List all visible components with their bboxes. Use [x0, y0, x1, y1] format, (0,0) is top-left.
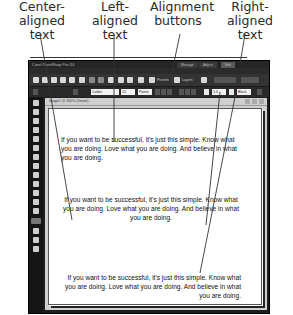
palette-button[interactable]	[214, 77, 236, 83]
cursor-icon[interactable]	[201, 77, 207, 83]
canvas-page[interactable]: If you want to be successful, it's just …	[48, 108, 262, 305]
presets-icon[interactable]	[149, 77, 155, 83]
save-icon[interactable]	[51, 77, 57, 83]
text-mode-button[interactable]	[73, 89, 78, 95]
tools-palette	[29, 97, 43, 313]
left-aligned-paragraph[interactable]: If you want to be successful, it's just …	[61, 135, 241, 162]
layers-label[interactable]: Layers	[182, 77, 193, 83]
redo-icon[interactable]	[98, 77, 104, 83]
open-file-icon[interactable]	[42, 77, 48, 83]
app-title: Corel PaintShop Pro X4	[32, 61, 74, 68]
callout-alignment-buttons: Alignment buttons	[150, 0, 206, 28]
units-select[interactable]: Points	[138, 89, 152, 95]
dropper-tool-icon[interactable]	[33, 127, 39, 133]
crop-icon[interactable]	[108, 77, 114, 83]
center-aligned-paragraph[interactable]: If you want to be successful, it's just …	[61, 195, 241, 222]
mirror-icon[interactable]	[127, 77, 133, 83]
stroke-width-field[interactable]: 1.0	[212, 89, 226, 95]
settings-icon[interactable]	[79, 77, 85, 83]
color-select[interactable]: Black	[237, 89, 251, 95]
straighten-tool-icon[interactable]	[33, 145, 39, 151]
document-tab-label: Image1 @ 100% (Vector)	[49, 98, 88, 105]
copy-icon[interactable]	[69, 77, 75, 83]
eraser-tool-icon[interactable]	[33, 199, 39, 205]
crop-tool-icon[interactable]	[33, 136, 39, 142]
callout-center-aligned-text: Center-aligned text	[2, 0, 82, 42]
print-icon[interactable]	[60, 77, 66, 83]
title-bar: Corel PaintShop Pro X4 Manage Adjust Edi…	[29, 61, 269, 68]
red-eye-tool-icon[interactable]	[33, 154, 39, 160]
document-tab[interactable]: Image1 @ 100% (Vector)	[45, 98, 267, 106]
clone-tool-icon[interactable]	[33, 172, 39, 178]
font-select[interactable]: Calibri	[91, 89, 119, 95]
scratch-remover-icon[interactable]	[33, 181, 39, 187]
standard-toolbar: Presets Layers	[29, 74, 269, 87]
layers-icon[interactable]	[174, 77, 180, 83]
text-tool-icon[interactable]	[31, 218, 41, 224]
text-tool-options: Calibri 12 Points 1.0 Black	[29, 87, 269, 97]
fill-tool-icon[interactable]	[33, 208, 39, 214]
flip-icon[interactable]	[118, 77, 124, 83]
minimize-button[interactable]	[245, 99, 250, 104]
close-button[interactable]	[259, 99, 264, 104]
font-size-select[interactable]: 12	[121, 89, 135, 95]
document-window: Image1 @ 100% (Vector) If you want to be…	[45, 98, 267, 310]
app-window: Corel PaintShop Pro X4 Manage Adjust Edi…	[28, 60, 270, 314]
align-right-button[interactable]	[191, 89, 196, 95]
new-file-icon[interactable]	[33, 77, 39, 83]
maximize-button[interactable]	[252, 99, 257, 104]
fill-color-swatch[interactable]	[204, 89, 209, 95]
callout-left-aligned-text: Left-aligned text	[84, 0, 146, 42]
pan-tool-icon[interactable]	[33, 100, 39, 106]
bold-button[interactable]	[155, 89, 160, 95]
paint-brush-icon[interactable]	[33, 190, 39, 196]
preset-button[interactable]	[33, 89, 38, 95]
apply-button[interactable]	[257, 89, 262, 95]
right-aligned-paragraph[interactable]: If you want to be successful, it's just …	[61, 273, 241, 300]
pick-tool-icon[interactable]	[33, 109, 39, 115]
align-left-button[interactable]	[179, 89, 184, 95]
selection-tool-icon[interactable]	[33, 118, 39, 124]
zoom-icon[interactable]	[138, 77, 144, 83]
makeover-tool-icon[interactable]	[33, 163, 39, 169]
panel-button[interactable]	[241, 77, 259, 83]
underline-button[interactable]	[167, 89, 172, 95]
presets-label[interactable]: Presets	[157, 77, 169, 83]
warp-tool-icon[interactable]	[33, 246, 39, 252]
align-center-button[interactable]	[185, 89, 190, 95]
italic-button[interactable]	[161, 89, 166, 95]
callout-right-aligned-text: Right-aligned text	[210, 0, 290, 42]
pen-tool-icon[interactable]	[33, 237, 39, 243]
shape-tool-icon[interactable]	[33, 228, 39, 234]
callout-baseline	[30, 57, 247, 58]
undo-icon[interactable]	[89, 77, 95, 83]
stroke-color-swatch[interactable]	[229, 89, 234, 95]
